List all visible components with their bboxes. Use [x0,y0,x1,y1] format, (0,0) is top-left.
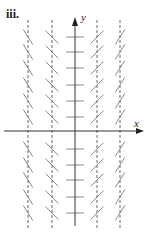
x-axis-arrow-icon [136,128,144,134]
dashed-guide-lines [28,20,120,229]
slope-field-canvas [0,0,147,235]
slope-segment [91,143,104,156]
y-axis-arrow-icon [72,17,78,26]
axes [4,17,144,226]
slope-segments [23,29,125,220]
slope-segment [115,141,125,156]
slope-segment [46,143,59,156]
slope-segment [23,141,33,156]
